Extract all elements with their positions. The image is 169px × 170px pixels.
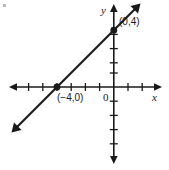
x-intercept-label: (−4,0)	[57, 92, 83, 103]
y-axis-arrow-up	[110, 4, 118, 12]
y-intercept-point	[110, 27, 117, 34]
y-axis-arrow-down	[110, 156, 118, 164]
x-axis-arrow-left	[9, 83, 17, 91]
origin-label: 0	[103, 91, 109, 103]
x-axis-arrow-right	[154, 83, 162, 91]
coordinate-plane-figure: y x 0 (0,4) (−4,0)	[0, 0, 169, 170]
x-axis-label: x	[151, 91, 157, 103]
graph-canvas: y x 0 (0,4) (−4,0)	[0, 0, 169, 170]
y-axis-label: y	[100, 4, 106, 16]
y-intercept-label: (0,4)	[119, 16, 140, 27]
x-intercept-point	[54, 84, 61, 91]
